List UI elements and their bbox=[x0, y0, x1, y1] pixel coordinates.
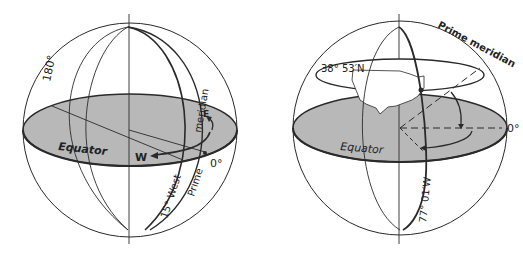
label-zero-right: 0° bbox=[507, 122, 520, 135]
prime-equator-point bbox=[203, 151, 207, 155]
left-globe bbox=[23, 14, 237, 244]
diagram-canvas: 180° Equator W E 0° meridian Prime 15° W… bbox=[0, 0, 523, 254]
label-180: 180° bbox=[40, 54, 58, 83]
label-15-west: 15° West bbox=[158, 173, 183, 220]
washington-point bbox=[419, 88, 424, 93]
label-latitude: 38° 53′N bbox=[321, 63, 364, 74]
label-west: W bbox=[135, 151, 147, 164]
label-longitude: 77° 01′W bbox=[417, 176, 433, 223]
label-zero-left: 0° bbox=[210, 157, 223, 170]
label-prime: Prime bbox=[185, 167, 204, 198]
